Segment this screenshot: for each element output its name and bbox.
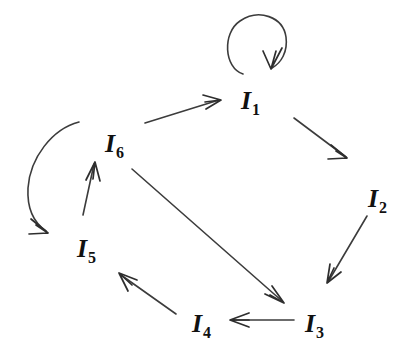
node-subscript: 6 — [116, 144, 124, 161]
node-base-letter: I — [305, 309, 315, 338]
diagram-canvas: I1 I2 I3 I4 I5 I6 — [0, 0, 414, 363]
edge-i1-to-i2-arrowhead — [328, 145, 347, 159]
edge-i5-to-i6 — [83, 162, 100, 215]
node-label-i6: I6 — [105, 131, 123, 157]
edge-i6-to-i3-path — [132, 169, 282, 301]
edge-i6-to-i5-arc-path — [28, 122, 79, 231]
edge-i3-to-i4 — [230, 313, 294, 327]
edge-i2-to-i3-path — [328, 216, 367, 282]
node-subscript: 4 — [203, 324, 211, 341]
edge-i1-self-loop-arrowhead — [263, 48, 282, 69]
edge-i6-to-i1-path — [145, 100, 219, 123]
edge-i4-to-i5-arrowhead — [119, 273, 137, 291]
node-subscript: 5 — [88, 249, 96, 266]
node-subscript: 3 — [316, 324, 324, 341]
node-base-letter: I — [368, 184, 378, 213]
edge-i1-self-loop-path — [228, 15, 287, 74]
node-label-i1: I1 — [241, 88, 259, 114]
node-label-i5: I5 — [77, 236, 95, 262]
edge-i5-to-i6-path — [83, 164, 94, 215]
edge-i6-to-i5-arrowhead — [29, 219, 48, 234]
edge-i1-to-i2 — [294, 118, 347, 159]
edge-i6-to-i5-arc — [28, 122, 79, 234]
node-label-i4: I4 — [192, 311, 210, 337]
node-base-letter: I — [192, 309, 202, 338]
edge-i6-to-i3 — [132, 169, 284, 303]
node-label-i2: I2 — [368, 186, 386, 212]
edge-i4-to-i5-path — [121, 275, 176, 314]
edge-i4-to-i5 — [119, 273, 176, 314]
graph-svg — [0, 0, 414, 363]
node-subscript: 2 — [379, 199, 387, 216]
node-label-i3: I3 — [305, 311, 323, 337]
edge-i2-to-i3 — [327, 216, 367, 283]
node-base-letter: I — [241, 86, 251, 115]
node-subscript: 1 — [252, 101, 260, 118]
node-base-letter: I — [77, 234, 87, 263]
node-base-letter: I — [105, 129, 115, 158]
edge-i1-self-loop — [228, 15, 287, 74]
edge-i3-to-i4-arrowhead — [230, 313, 249, 327]
edge-i2-to-i3-arrowhead — [327, 264, 341, 283]
edge-i6-to-i1 — [145, 95, 221, 123]
